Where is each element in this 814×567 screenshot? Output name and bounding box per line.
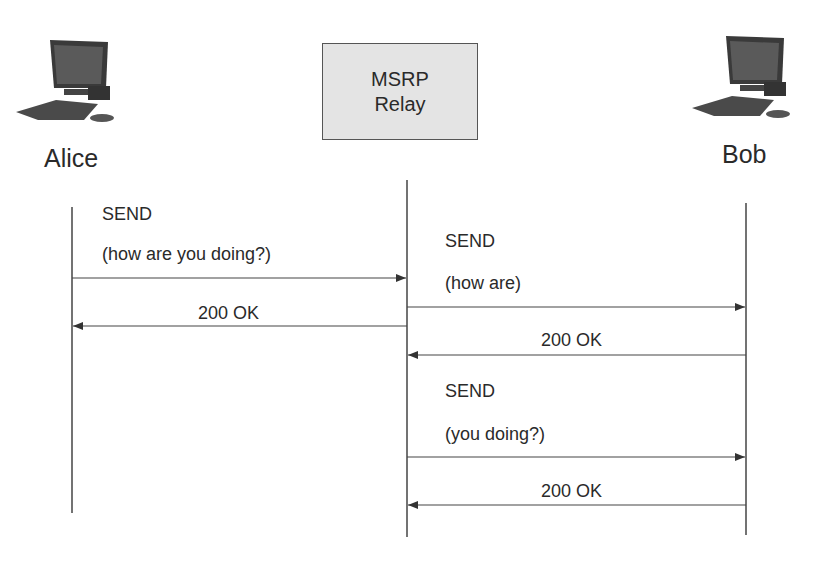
relay-label-line1: MSRP	[371, 67, 429, 92]
msg5-method: SEND	[445, 381, 495, 402]
msg1-body: (how are you doing?)	[102, 244, 271, 265]
msg6-method: 200 OK	[541, 481, 602, 502]
msg4-method: 200 OK	[541, 330, 602, 351]
msg3-body: (how are)	[445, 273, 521, 294]
msg2-method: 200 OK	[198, 303, 259, 324]
msg5-body: (you doing?)	[445, 424, 545, 445]
msg3-method: SEND	[445, 231, 495, 252]
alice-computer-icon	[16, 40, 114, 122]
bob-computer-icon	[692, 36, 790, 118]
msrp-relay-box: MSRP Relay	[322, 43, 478, 140]
alice-label: Alice	[44, 144, 98, 173]
relay-label-line2: Relay	[374, 92, 425, 117]
msg1-method: SEND	[102, 204, 152, 225]
bob-label: Bob	[722, 140, 766, 169]
